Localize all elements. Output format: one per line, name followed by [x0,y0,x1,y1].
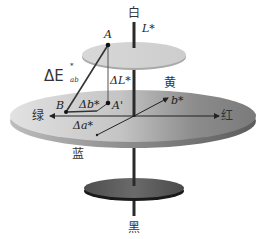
white-pole-label: 白 [128,5,140,20]
green-label: 绿 [32,108,44,123]
delta-L-label: ΔL* [109,74,131,87]
delta-a-label: Δa* [72,119,94,132]
point-A-prime [106,101,111,106]
red-label: 红 [221,108,233,123]
delta-E-label: ΔE * ab [44,62,79,85]
svg-text:*: * [70,62,74,70]
cielab-diagram: 白 L* A ΔE * ab ΔL* 黄 b* B Δb* A' 绿 红 Δa*… [0,0,259,239]
point-A-prime-label: A' [111,99,123,112]
point-B-label: B [55,99,64,112]
point-A-label: A [103,28,112,41]
svg-text:ab: ab [70,76,79,84]
point-B [64,110,68,114]
delta-b-label: Δb* [78,98,100,111]
yellow-label: 黄 [164,76,176,90]
lightness-axis-label: L* [141,22,155,35]
svg-text:ΔE: ΔE [44,67,64,85]
point-A [106,43,111,48]
black-pole-label: 黑 [128,221,140,235]
blue-label: 蓝 [72,147,84,161]
b-axis-label: b* [171,94,184,107]
delta-a-line [66,111,97,112]
